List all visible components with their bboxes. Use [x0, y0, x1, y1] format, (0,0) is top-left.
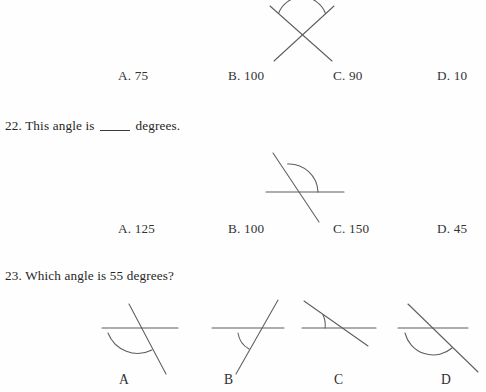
figure-label-d[interactable]: D — [441, 372, 451, 388]
angle-arc — [238, 333, 249, 349]
angle-diagram-crossed-x — [262, 2, 342, 64]
angle-arc — [323, 315, 325, 328]
figure-label-b[interactable]: B — [224, 372, 233, 388]
question-22-suffix: degrees. — [135, 118, 180, 133]
choice-22-d[interactable]: D. 45 — [437, 221, 467, 237]
angle-diagram-choice-c — [300, 298, 380, 358]
line-down-left — [274, 6, 334, 61]
diagonal-line — [236, 300, 278, 374]
choice-22-b[interactable]: B. 100 — [228, 221, 264, 237]
diagonal-line — [273, 153, 319, 222]
line-down-right — [270, 6, 332, 61]
question-22-text: 22. This angle is degrees. — [5, 118, 180, 134]
choice-22-a[interactable]: A. 125 — [118, 221, 155, 237]
angle-arc — [405, 333, 452, 355]
figure-label-c[interactable]: C — [334, 372, 343, 388]
angle-diagram-transversal — [264, 150, 350, 224]
choice-21-d[interactable]: D. 10 — [437, 68, 467, 84]
choice-22-c[interactable]: C. 150 — [333, 221, 369, 237]
angle-arc — [279, 0, 326, 14]
choice-21-b[interactable]: B. 100 — [228, 68, 264, 84]
worksheet-page: A. 75 B. 100 C. 90 D. 10 22. This angle … — [0, 0, 486, 392]
choice-21-a[interactable]: A. 75 — [118, 68, 148, 84]
angle-arc — [288, 164, 319, 192]
question-22-prefix: 22. This angle is — [5, 118, 95, 133]
angle-diagram-choice-b — [210, 298, 290, 376]
question-22-answer-blank[interactable] — [100, 119, 130, 131]
diagonal-line — [304, 301, 368, 346]
choice-21-c[interactable]: C. 90 — [333, 68, 363, 84]
diagonal-line — [408, 304, 478, 372]
diagonal-line — [129, 304, 166, 374]
question-23-text: 23. Which angle is 55 degrees? — [5, 268, 174, 284]
angle-diagram-choice-a — [100, 300, 184, 376]
angle-diagram-choice-d — [396, 300, 482, 374]
figure-label-a[interactable]: A — [119, 372, 129, 388]
